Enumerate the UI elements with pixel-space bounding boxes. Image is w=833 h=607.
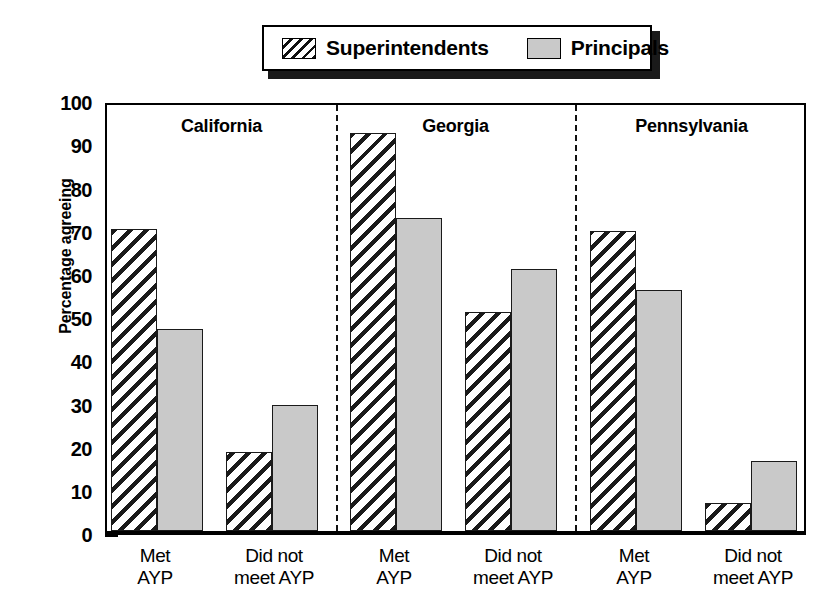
legend-entry-principals: Principals (527, 36, 669, 60)
panel-title-pennsylvania: Pennsylvania (575, 116, 808, 137)
panel-divider-1 (336, 105, 338, 531)
y-tick-label-40: 40 (16, 351, 92, 374)
x-label-line2: AYP (99, 567, 211, 589)
x-label-line1: Met (99, 545, 211, 567)
bar-california-met-principals (157, 329, 203, 531)
x-label-line1: Met (578, 545, 690, 567)
bar-georgia-didnot-principals (511, 269, 557, 531)
bar-pennsylvania-didnot-principals (751, 461, 797, 531)
x-label-california-met: Met AYP (99, 545, 211, 589)
x-label-line2: meet AYP (210, 567, 338, 589)
x-label-pennsylvania-didnot: Did not meet AYP (689, 545, 817, 589)
bar-california-met-superintendents (111, 229, 157, 531)
y-tick-label-80: 80 (16, 179, 92, 202)
y-axis-title: Percentage agreeing (57, 126, 75, 386)
y-tick-label-0: 0 (16, 524, 92, 547)
x-label-georgia-didnot: Did not meet AYP (449, 545, 577, 589)
plot-area: California Georgia Pennsylvania (105, 103, 806, 535)
bar-pennsylvania-didnot-superintendents (705, 503, 751, 531)
y-tick-label-50: 50 (16, 308, 92, 331)
bar-pennsylvania-met-superintendents (590, 231, 636, 531)
y-tick-mark-0 (105, 535, 118, 537)
x-label-line1: Did not (449, 545, 577, 567)
x-label-line1: Did not (210, 545, 338, 567)
hatched-swatch-icon (282, 38, 316, 59)
x-label-pennsylvania-met: Met AYP (578, 545, 690, 589)
bar-georgia-met-superintendents (350, 133, 396, 531)
legend-label-principals: Principals (571, 36, 669, 60)
y-tick-label-60: 60 (16, 265, 92, 288)
y-tick-label-90: 90 (16, 135, 92, 158)
panel-title-california: California (107, 116, 336, 137)
panel-divider-2 (575, 105, 577, 531)
bar-georgia-didnot-superintendents (465, 312, 511, 531)
x-label-line1: Did not (689, 545, 817, 567)
bar-california-didnot-principals (272, 405, 318, 531)
solid-gray-swatch-icon (527, 38, 561, 59)
x-label-line2: AYP (578, 567, 690, 589)
x-label-california-didnot: Did not meet AYP (210, 545, 338, 589)
x-label-line1: Met (338, 545, 450, 567)
x-label-georgia-met: Met AYP (338, 545, 450, 589)
plot-inner: California Georgia Pennsylvania (107, 105, 804, 531)
y-tick-label-30: 30 (16, 395, 92, 418)
x-label-line2: meet AYP (689, 567, 817, 589)
y-tick-label-20: 20 (16, 438, 92, 461)
y-tick-label-70: 70 (16, 222, 92, 245)
x-label-line2: meet AYP (449, 567, 577, 589)
bar-california-didnot-superintendents (226, 452, 272, 531)
chart-legend: Superintendents Principals (262, 25, 652, 71)
legend-entry-superintendents: Superintendents (282, 36, 489, 60)
y-tick-label-100: 100 (16, 92, 92, 115)
chart-figure: Superintendents Principals Percentage ag… (0, 0, 833, 607)
legend-label-superintendents: Superintendents (326, 36, 489, 60)
bar-pennsylvania-met-principals (636, 290, 682, 531)
y-tick-label-10: 10 (16, 481, 92, 504)
bar-georgia-met-principals (396, 218, 442, 531)
x-label-line2: AYP (338, 567, 450, 589)
